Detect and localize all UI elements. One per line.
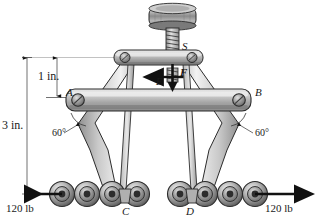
label-C: C [122, 206, 129, 217]
top-link-bar [114, 50, 203, 65]
label-B: B [255, 87, 262, 98]
angle-label-right: 60° [255, 128, 269, 138]
mechanism-drawing [0, 0, 317, 223]
roller-left-2 [75, 182, 100, 207]
label-S: S [182, 41, 188, 52]
dimension-label-3in: 3 in. [2, 119, 23, 131]
rivet-top-right [187, 53, 197, 63]
main-bar-AB [66, 89, 251, 111]
pin-A [72, 94, 85, 107]
force-label-right: 120 lb [265, 203, 293, 214]
label-F: F [180, 67, 187, 78]
dimension-label-1in: 1 in. [38, 70, 59, 82]
label-A: A [66, 87, 73, 98]
label-E: E [156, 77, 162, 87]
arm-right-inner [183, 64, 197, 190]
angle-label-left: 60° [52, 128, 66, 138]
pin-B [233, 94, 246, 107]
arm-left-inner [120, 64, 134, 190]
roller-right-3 [218, 182, 243, 207]
rivet-top-left [120, 53, 130, 63]
roller-group-right [168, 182, 268, 207]
force-label-left: 120 lb [6, 203, 34, 214]
roller-group-left [50, 182, 150, 207]
figure-canvas: 1 in. 3 in. A B S E F C D 60° 60° 120 lb… [0, 0, 317, 223]
label-D: D [186, 206, 194, 217]
